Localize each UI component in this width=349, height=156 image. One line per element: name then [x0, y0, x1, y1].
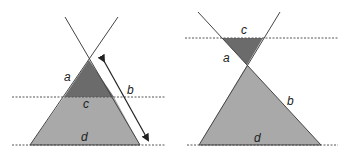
right-label-c: c: [241, 23, 247, 37]
right-label-a: a: [223, 51, 230, 65]
diagram-canvas: a b c d a b c d: [0, 0, 349, 156]
left-label-a: a: [64, 70, 71, 84]
left-label-c: c: [83, 97, 89, 111]
left-label-b: b: [127, 83, 134, 97]
right-label-b: b: [287, 94, 294, 108]
left-diagram: a b c d: [12, 17, 166, 145]
right-label-d: d: [254, 131, 261, 145]
right-diagram: a b c d: [185, 12, 338, 145]
left-label-d: d: [81, 130, 88, 144]
